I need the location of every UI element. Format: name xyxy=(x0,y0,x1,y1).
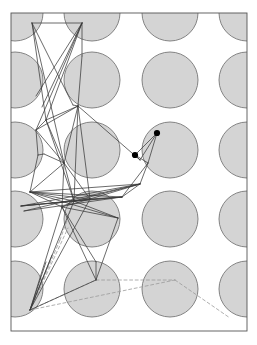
disk xyxy=(64,52,120,108)
marked-point xyxy=(132,152,138,158)
disk xyxy=(142,122,198,178)
marked-point xyxy=(154,130,160,136)
figure-root xyxy=(0,0,257,345)
disk xyxy=(142,261,198,317)
disk xyxy=(64,261,120,317)
disk xyxy=(142,52,198,108)
disk xyxy=(64,122,120,178)
disk xyxy=(142,191,198,247)
granular-packing-figure xyxy=(0,0,257,345)
